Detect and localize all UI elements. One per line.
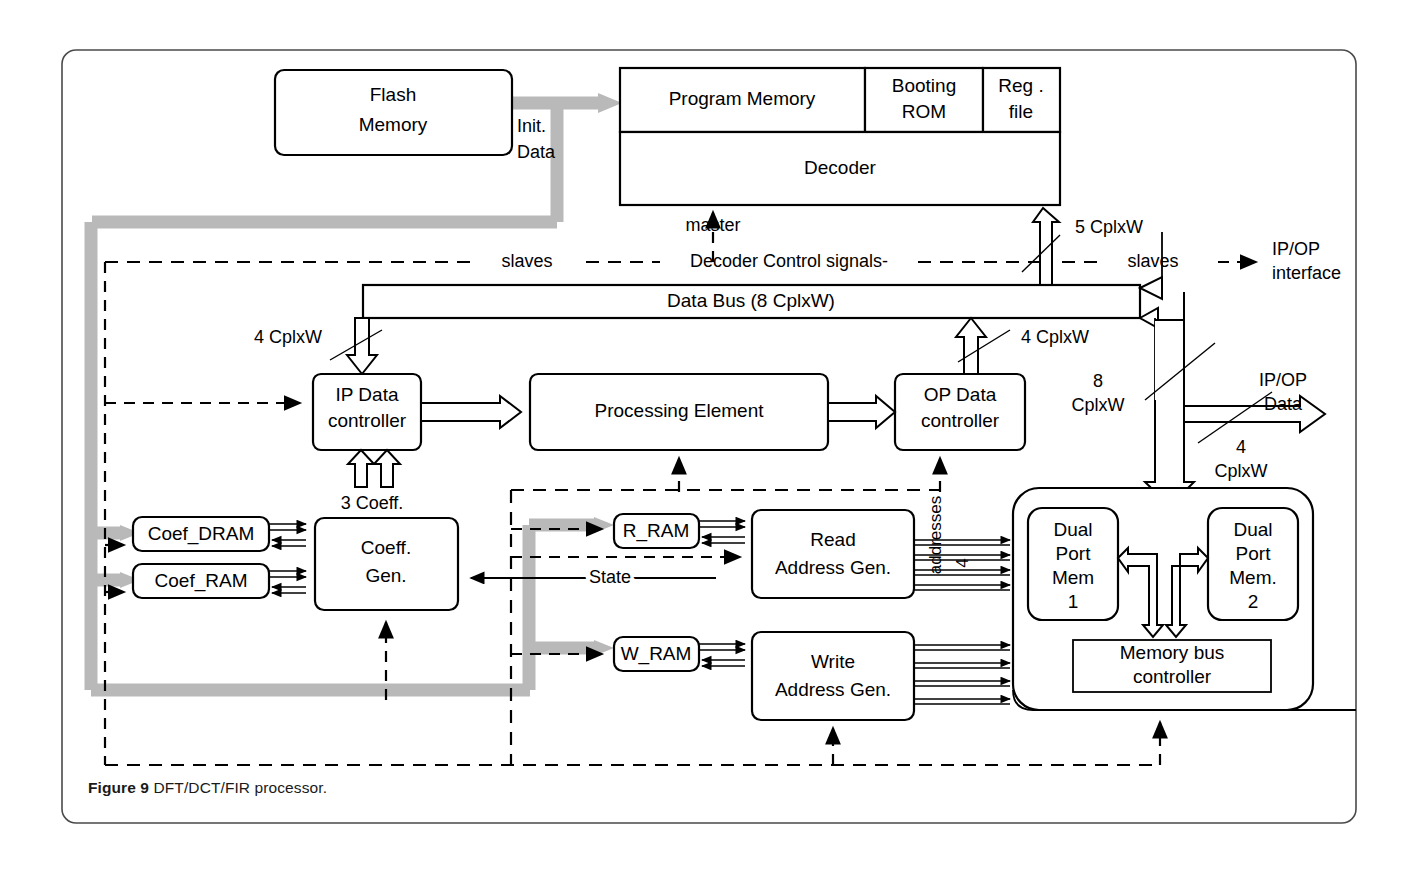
ipop-interface-label-line2: interface	[1272, 263, 1341, 283]
write-addr-gen-label-line2: Address Gen.	[775, 679, 891, 700]
decoder-label: Decoder	[804, 157, 876, 178]
reg-file-label-line1: Reg .	[998, 75, 1043, 96]
dual-port-mem1-line1: Dual	[1053, 519, 1092, 540]
dual-port-mem1-line4: 1	[1068, 591, 1079, 612]
dual-port-mem2-line1: Dual	[1233, 519, 1272, 540]
dual-port-mem1-line2: Port	[1056, 543, 1092, 564]
w-ram-label: W_RAM	[621, 643, 692, 665]
ip-data-controller-label-line1: IP Data	[335, 384, 398, 405]
figure-caption: Figure 9 DFT/DCT/FIR processor.	[88, 779, 327, 797]
decoder-control-signals-label: Decoder Control signals-	[690, 251, 888, 271]
slaves-left-label: slaves	[501, 251, 552, 271]
state-label: State	[589, 567, 631, 587]
op-data-controller-label-line2: controller	[921, 410, 1000, 431]
cplxw-4-out-label-line1: 4	[1236, 437, 1246, 457]
flash-memory-block[interactable]	[275, 70, 512, 155]
coeff-3-label: 3 Coeff.	[341, 493, 404, 513]
dual-port-mem1-line3: Mem	[1052, 567, 1094, 588]
processing-element-label: Processing Element	[595, 400, 765, 421]
ipop-interface-label-line1: IP/OP	[1272, 239, 1320, 259]
ip-data-controller-label-line2: controller	[328, 410, 407, 431]
address-width-label: 4	[953, 558, 972, 567]
flash-memory-label-line2: Memory	[359, 114, 428, 135]
slaves-right-label: slaves	[1127, 251, 1178, 271]
processor-block-diagram: Flash Memory Program Memory Booting ROM …	[0, 0, 1410, 875]
r-ram-label: R_RAM	[623, 520, 690, 542]
read-addr-gen-label-line1: Read	[810, 529, 855, 550]
coeff-gen-block[interactable]	[315, 518, 458, 610]
cplxw-4-left-label: 4 CplxW	[254, 327, 322, 347]
booting-rom-label-line1: Booting	[892, 75, 956, 96]
memory-bus-controller-line2: controller	[1133, 666, 1212, 687]
figure-caption-label: Figure 9	[88, 779, 149, 796]
init-data-label-line1: Init.	[517, 116, 546, 136]
cplxw-8-label-line1: 8	[1093, 371, 1103, 391]
master-label: master	[685, 215, 740, 235]
booting-rom-label-line2: ROM	[902, 101, 946, 122]
init-data-label-line2: Data	[517, 142, 556, 162]
cplxw-5-label: 5 CplxW	[1075, 217, 1143, 237]
program-memory-label: Program Memory	[669, 88, 816, 109]
addresses-label: addresses	[926, 496, 945, 574]
coef-dram-label: Coef_DRAM	[148, 523, 255, 545]
dual-port-mem2-line3: Mem.	[1229, 567, 1277, 588]
dual-port-mem2-line2: Port	[1236, 543, 1272, 564]
memory-bus-controller-line1: Memory bus	[1120, 642, 1225, 663]
read-addr-gen-label-line2: Address Gen.	[775, 557, 891, 578]
figure-container: Flash Memory Program Memory Booting ROM …	[0, 0, 1410, 875]
flash-memory-label-line1: Flash	[370, 84, 416, 105]
ipop-data-label-line1: IP/OP	[1259, 370, 1307, 390]
write-addr-gen-label-line1: Write	[811, 651, 855, 672]
coef-ram-label: Coef_RAM	[155, 570, 248, 592]
data-bus-label: Data Bus (8 CplxW)	[667, 290, 835, 311]
write-address-gen-block[interactable]	[752, 632, 914, 720]
cplxw-4-right-label: 4 CplxW	[1021, 327, 1089, 347]
coeff-gen-label-line2: Gen.	[365, 565, 406, 586]
cplxw-4-out-label-line2: CplxW	[1215, 461, 1268, 481]
ipop-data-label-line2: Data	[1264, 394, 1303, 414]
cplxw-8-label-line2: CplxW	[1072, 395, 1125, 415]
reg-file-label-line2: file	[1009, 101, 1033, 122]
dual-port-mem2-line4: 2	[1248, 591, 1259, 612]
read-address-gen-block[interactable]	[752, 510, 914, 598]
figure-caption-text: DFT/DCT/FIR processor.	[149, 779, 327, 796]
coeff-gen-label-line1: Coeff.	[361, 537, 411, 558]
op-data-controller-label-line1: OP Data	[924, 384, 997, 405]
